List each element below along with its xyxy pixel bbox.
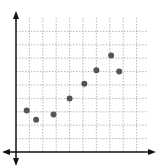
axes [2, 11, 156, 166]
y-axis-down-arrow-icon [13, 158, 19, 166]
scatter-plot [0, 0, 158, 168]
data-point [116, 69, 122, 75]
data-point [108, 53, 114, 59]
data-point [51, 111, 57, 117]
data-point [24, 107, 30, 113]
data-point [81, 81, 87, 87]
data-point [33, 117, 39, 123]
data-points [24, 53, 122, 123]
y-axis-up-arrow-icon [13, 11, 19, 19]
x-axis-left-arrow-icon [2, 149, 10, 155]
x-axis-right-arrow-icon [148, 149, 156, 155]
data-point [67, 95, 73, 101]
data-point [93, 67, 99, 73]
